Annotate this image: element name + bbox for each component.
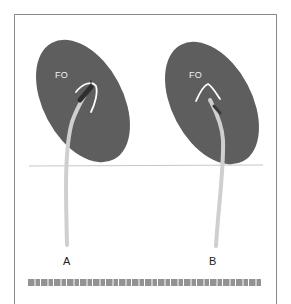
panel-label-a: A: [63, 255, 70, 267]
fo-label-b: FO: [189, 70, 202, 80]
panel-label-b: B: [209, 255, 216, 267]
baseline-line: [29, 165, 263, 166]
fo-label-a: FO: [55, 70, 68, 80]
figure-caption-cutoff: [28, 279, 262, 286]
